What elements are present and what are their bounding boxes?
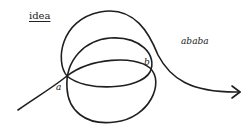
ababa-curve [18,11,240,123]
point-a-label: a [56,83,61,92]
point-b-label: b [144,58,150,67]
diagram-canvas: idea a b ababa [0,0,247,135]
diagram-title: idea [29,11,50,21]
word-label: ababa [181,37,209,46]
